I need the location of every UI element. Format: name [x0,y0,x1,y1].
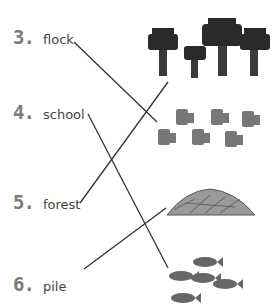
line-pile-logs [84,208,166,269]
trees-icon [140,14,276,80]
birds-icon [155,105,276,165]
fish-icon [165,248,275,307]
log-pile-icon [165,185,255,220]
